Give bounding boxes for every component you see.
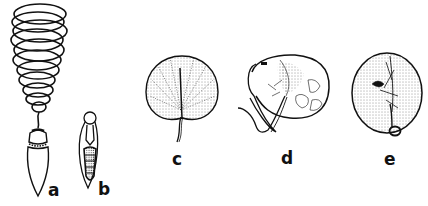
panel-a-drawing [11,4,67,196]
panel-label-e: e [384,151,396,168]
panel-d-drawing [238,55,329,132]
panel-b-drawing [79,112,97,188]
panel-c-drawing [146,56,218,142]
panel-label-b: b [98,181,110,198]
panel-label-c: c [172,151,182,168]
figure-plate: a b c d e [0,0,428,206]
panel-label-a: a [48,182,59,199]
figure-drawings [0,0,428,206]
panel-label-d: d [281,150,293,167]
panel-e-drawing [352,53,422,136]
